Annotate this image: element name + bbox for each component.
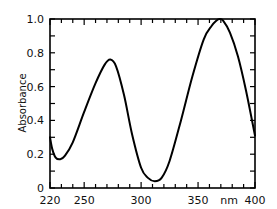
y-tick-label: 0.6 [27, 81, 45, 94]
y-tick-label: 0 [37, 182, 44, 195]
y-tick-label: 0.2 [27, 148, 45, 161]
x-tick-label: 220 [40, 194, 61, 207]
x-axis-ticks [50, 19, 255, 188]
y-axis-ticks [50, 19, 255, 188]
y-axis-title: Absorbance [17, 73, 28, 132]
absorbance-chart: 220250300350400 00.20.40.60.81.0 Absorba… [0, 0, 277, 209]
x-tick-label: 300 [131, 194, 152, 207]
x-tick-label: 400 [245, 194, 266, 207]
x-tick-label: 250 [74, 194, 95, 207]
y-tick-label: 1.0 [27, 13, 45, 26]
x-tick-label: 350 [188, 194, 209, 207]
absorbance-curve [50, 19, 255, 181]
y-axis-tick-labels: 00.20.40.60.81.0 [27, 13, 45, 195]
x-axis-unit-label: nm [220, 194, 238, 207]
plot-frame [50, 19, 255, 188]
y-tick-label: 0.4 [27, 114, 45, 127]
y-tick-label: 0.8 [27, 47, 45, 60]
